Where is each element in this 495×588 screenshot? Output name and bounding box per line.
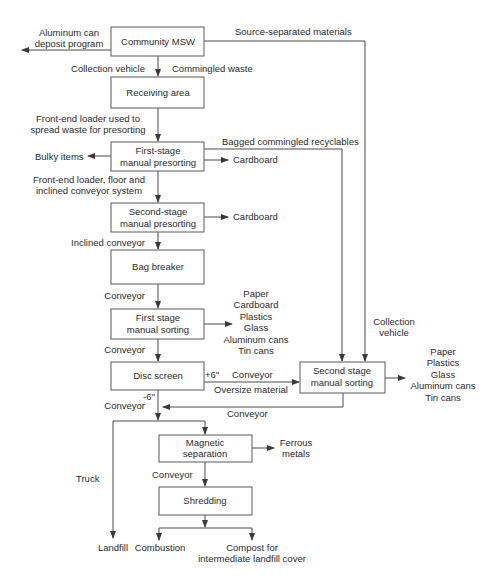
output-paper: Paper [430, 346, 455, 357]
label-conveyor: Conveyor [232, 369, 273, 380]
node-magnetic-separation: Magnetic separation [159, 435, 252, 462]
output-cardboard: Cardboard [234, 299, 279, 310]
label-conveyor-return: Conveyor [227, 408, 268, 419]
node-label: First stage [136, 312, 180, 323]
label-cardboard-2: Cardboard [233, 211, 278, 222]
node-shredding: Shredding [159, 487, 252, 515]
second-sort-outputs: Paper Plastics Glass Aluminum cans Tin c… [411, 346, 476, 403]
output-glass: Glass [431, 369, 456, 380]
node-label: manual sorting [311, 377, 373, 388]
node-label: Second stage [313, 365, 371, 376]
first-sort-outputs: Paper Cardboard Plastics Glass Aluminum … [224, 288, 289, 356]
node-second-stage-presorting: Second-stage manual presorting [111, 203, 204, 232]
output-paper: Paper [243, 288, 268, 299]
node-first-stage-presorting: First-stage manual presorting [111, 142, 204, 171]
output-tin-cans: Tin cans [425, 392, 461, 403]
label-conveyor: Conveyor [104, 290, 145, 301]
label-front-end-loader-spread: Front-end loader used to [36, 113, 140, 124]
label-collection-vehicle-2: vehicle [379, 327, 409, 338]
label-ferrous-metals: Ferrous [280, 437, 313, 448]
label-conveyor: Conveyor [104, 344, 145, 355]
label-bagged-commingled: Bagged commingled recyclables [222, 136, 359, 147]
label-bulky-items: Bulky items [35, 151, 84, 162]
output-glass: Glass [244, 322, 269, 333]
label-front-end-loader-floor: inclined conveyor system [36, 185, 142, 196]
node-second-stage-sorting: Second stage manual sorting [300, 362, 385, 393]
output-aluminum-cans: Aluminum cans [224, 334, 289, 345]
node-receiving-area: Receiving area [111, 77, 204, 108]
label-landfill: Landfill [98, 542, 128, 553]
label-commingled-waste: Commingled waste [172, 63, 253, 74]
label-collection-vehicle-2: Collection [373, 316, 415, 327]
node-label: Disc screen [133, 370, 183, 381]
node-label: manual presorting [120, 218, 196, 229]
node-community-msw: Community MSW [111, 27, 204, 56]
node-label: separation [183, 448, 227, 459]
label-conveyor: Conveyor [104, 400, 145, 411]
node-label: Shredding [183, 495, 226, 506]
node-label: manual sorting [127, 324, 189, 335]
node-first-stage-sorting: First stage manual sorting [111, 309, 204, 339]
label-aluminum-can-deposit: Aluminum can [39, 27, 99, 38]
label-inclined-conveyor: Inclined conveyor [71, 237, 145, 248]
label-aluminum-can-deposit: deposit program [35, 38, 104, 49]
process-boxes: Community MSW Receiving area First-stage… [111, 27, 385, 515]
label-plus-6: +6" [205, 369, 219, 380]
edge-labels: Aluminum can deposit program Source-sepa… [30, 26, 475, 564]
node-label: Bag breaker [132, 261, 184, 272]
output-aluminum-cans: Aluminum cans [411, 380, 476, 391]
node-label: Receiving area [126, 87, 190, 98]
label-front-end-loader-floor: Front-end loader, floor and [33, 174, 145, 185]
label-cardboard-1: Cardboard [233, 154, 278, 165]
label-oversize-material: Oversize material [214, 384, 288, 395]
msw-processing-flowchart: Community MSW Receiving area First-stage… [0, 0, 495, 588]
arrow-bagged-commingled [204, 149, 342, 361]
label-ferrous-metals: metals [282, 448, 310, 459]
label-truck: Truck [76, 473, 100, 484]
node-disc-screen: Disc screen [111, 362, 204, 390]
node-label: Community MSW [121, 36, 195, 47]
node-label: manual presorting [120, 157, 196, 168]
node-bag-breaker: Bag breaker [111, 250, 204, 284]
label-source-separated: Source-separated materials [235, 26, 352, 37]
label-combustion: Combustion [135, 542, 186, 553]
node-label: Magnetic [186, 437, 225, 448]
output-plastics: Plastics [427, 357, 460, 368]
label-compost: Compost for [226, 542, 278, 553]
node-label: Second-stage [129, 206, 188, 217]
output-tin-cans: Tin cans [238, 345, 274, 356]
arrow-sort2-return-conveyor [163, 393, 343, 407]
label-collection-vehicle: Collection vehicle [71, 63, 145, 74]
node-label: First-stage [136, 145, 181, 156]
label-conveyor: Conveyor [152, 469, 193, 480]
label-compost: intermediate landfill cover [198, 553, 306, 564]
output-plastics: Plastics [240, 311, 273, 322]
label-front-end-loader-spread: spread waste for presorting [30, 124, 145, 135]
arrow-source-separated [204, 41, 365, 361]
